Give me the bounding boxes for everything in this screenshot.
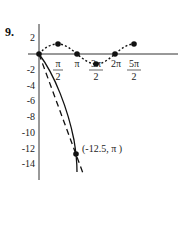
svg-text:-14: -14 [22, 158, 35, 169]
graph: 2 -2 -4 -6 -8 -10 -12 -14 π 2 π 3π 2 2π … [0, 0, 187, 234]
svg-text:2: 2 [94, 71, 99, 82]
svg-text:-2: -2 [27, 64, 35, 75]
svg-text:π: π [74, 58, 79, 69]
svg-text:2: 2 [132, 71, 137, 82]
y-tick-labels: 2 -2 -4 -6 -8 -10 -12 -14 [22, 32, 35, 169]
dashed-tangent-line [39, 54, 84, 176]
svg-text:-4: -4 [27, 80, 35, 91]
svg-text:2: 2 [56, 71, 61, 82]
annotation-label: (-12.5, π ) [82, 143, 122, 155]
svg-text:-12: -12 [22, 143, 35, 154]
svg-text:2π: 2π [111, 58, 121, 69]
svg-text:-10: -10 [22, 127, 35, 138]
svg-text:-8: -8 [27, 111, 35, 122]
svg-text:-6: -6 [27, 95, 35, 106]
annotated-point [73, 151, 79, 157]
svg-text:π: π [55, 58, 60, 69]
svg-text:2: 2 [30, 32, 35, 43]
svg-text:5π: 5π [129, 58, 139, 69]
